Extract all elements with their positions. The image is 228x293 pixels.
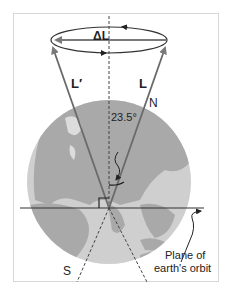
l-label: L xyxy=(139,77,147,90)
south-label: S xyxy=(63,265,71,277)
orbit-label-line2: earth's orbit xyxy=(154,263,211,274)
north-label: N xyxy=(149,97,158,109)
delta-l-label: ΔL xyxy=(93,30,109,42)
angle-label: 23.5° xyxy=(111,112,137,123)
orbit-label-line1: Plane of xyxy=(165,250,205,261)
l-prime-label: L′ xyxy=(71,77,82,90)
